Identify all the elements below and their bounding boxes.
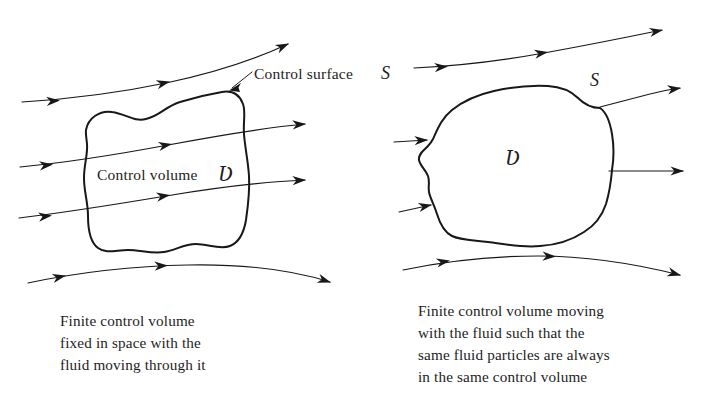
control-surface-symbol-right: S	[590, 70, 599, 90]
caption-line-2: with the fluid such that the	[418, 324, 585, 341]
streamline-inflow-lower-right-panel	[399, 200, 433, 212]
control-surface-leader-left	[229, 72, 252, 92]
control-surface-label-text: Control surface	[254, 65, 353, 82]
figure-root: Control surface S Control volume Ʋ Finit…	[0, 0, 701, 403]
caption-line-1: Finite control volume	[60, 312, 195, 329]
caption-line-1: Finite control volume moving	[418, 302, 604, 319]
caption-right-panel: Finite control volume moving with the fl…	[418, 302, 610, 385]
caption-left-panel: Finite control volume fixed in space wit…	[60, 312, 206, 373]
streamline-outflow-middle-right-panel	[609, 166, 684, 175]
control-volume-label-left: Control volume Ʋ	[97, 162, 233, 186]
caption-line-3: same fluid particles are always	[418, 346, 610, 363]
streamline-upper-through-left-panel	[20, 119, 306, 170]
control-volume-label-text: Control volume	[97, 166, 198, 183]
figure-canvas: Control surface S Control volume Ʋ Finit…	[0, 0, 701, 403]
streamline-outflow-upper-right-panel	[600, 83, 682, 107]
control-surface-symbol: S	[381, 63, 390, 83]
caption-line-3: fluid moving through it	[60, 356, 206, 373]
panel-moving-control-volume: S Ʋ Finite control volume moving with th…	[394, 25, 684, 385]
streamline-top-right-panel	[414, 25, 664, 72]
streamline-bottom-right-panel	[403, 251, 682, 279]
control-volume-symbol-left: Ʋ	[218, 162, 233, 186]
control-volume-symbol-right: Ʋ	[505, 146, 520, 170]
caption-line-4: in the same control volume	[418, 368, 587, 385]
streamline-bottom-left-panel	[28, 261, 332, 287]
panel-fixed-control-volume: Control surface S Control volume Ʋ Finit…	[19, 39, 390, 373]
caption-line-2: fixed in space with the	[60, 334, 201, 351]
streamline-inflow-upper-right-panel	[394, 135, 428, 145]
control-surface-label-left: Control surface S	[254, 63, 390, 83]
